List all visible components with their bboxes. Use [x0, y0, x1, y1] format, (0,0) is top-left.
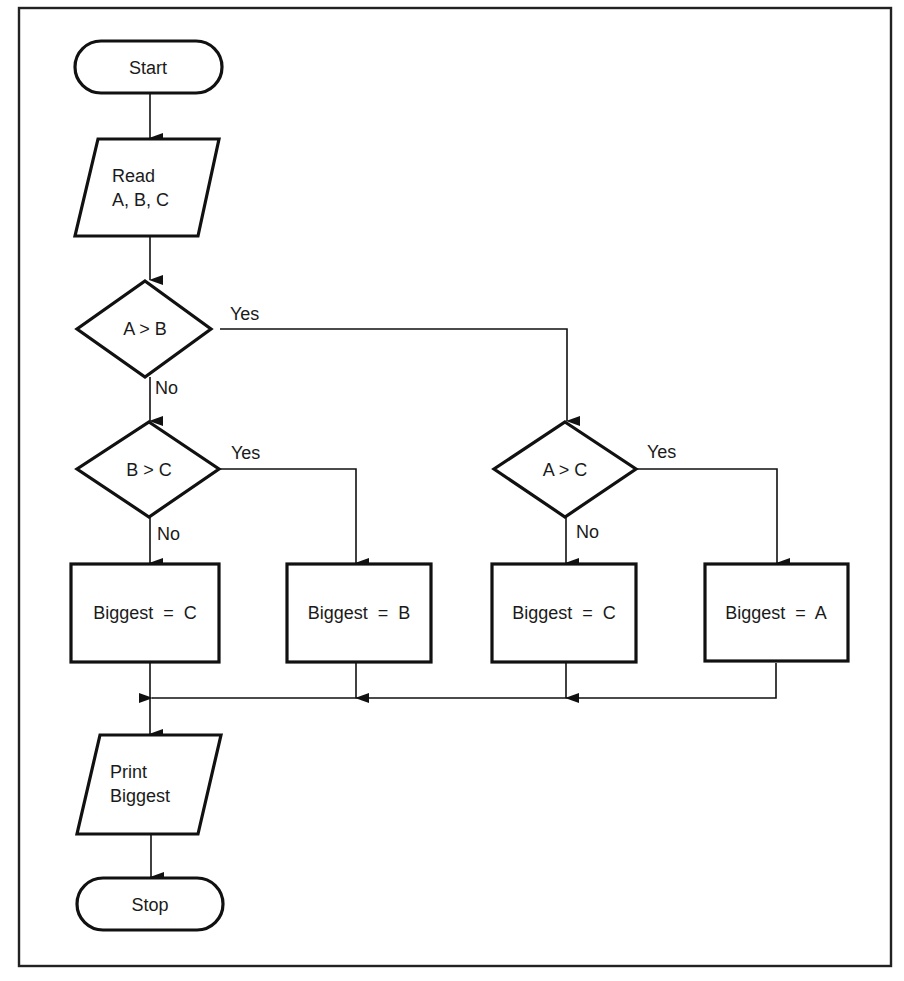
print-io-parallelogram — [77, 735, 221, 834]
decision-b-gt-c-no: No — [157, 524, 180, 544]
decision-b-gt-c-label: B > C — [126, 460, 172, 480]
start-label: Start — [129, 58, 167, 78]
edge-decbc-yes — [220, 469, 356, 563]
process-biggest-a-label: Biggest = A — [725, 603, 827, 623]
decision-a-gt-c-yes: Yes — [647, 442, 676, 462]
read-label-line1: Read — [112, 166, 155, 186]
edge-proca-merge — [152, 663, 776, 698]
node-decision-a-gt-b: A > B Yes No — [77, 281, 259, 398]
node-biggest-c-right: Biggest = C — [492, 564, 636, 662]
decision-a-gt-b-no: No — [155, 378, 178, 398]
node-biggest-b: Biggest = B — [287, 564, 431, 662]
node-decision-b-gt-c: B > C Yes No — [77, 422, 260, 544]
node-biggest-a: Biggest = A — [705, 564, 848, 661]
read-label-line2: A, B, C — [112, 190, 169, 210]
stop-label: Stop — [131, 895, 168, 915]
process-biggest-b-label: Biggest = B — [308, 603, 411, 623]
edge-decac-yes — [637, 469, 777, 563]
node-start: Start — [75, 41, 222, 93]
print-label-line1: Print — [110, 762, 147, 782]
decision-a-gt-b-yes: Yes — [230, 304, 259, 324]
decision-a-gt-c-no: No — [576, 522, 599, 542]
node-print: Print Biggest — [77, 735, 221, 834]
node-stop: Stop — [77, 878, 223, 930]
node-read: Read A, B, C — [75, 139, 219, 236]
read-io-parallelogram — [75, 139, 219, 236]
decision-a-gt-c-label: A > C — [543, 460, 588, 480]
flowchart-canvas: Start Read A, B, C A > B Yes No B > C Ye… — [0, 0, 904, 981]
node-biggest-c-left: Biggest = C — [71, 564, 219, 662]
print-label-line2: Biggest — [110, 786, 170, 806]
process-biggest-c-right-label: Biggest = C — [512, 603, 616, 623]
decision-b-gt-c-yes: Yes — [231, 443, 260, 463]
connectors — [150, 93, 777, 877]
decision-a-gt-b-label: A > B — [123, 319, 167, 339]
edge-decab-yes — [220, 329, 567, 421]
process-biggest-c-left-label: Biggest = C — [93, 603, 197, 623]
node-decision-a-gt-c: A > C Yes No — [494, 422, 676, 542]
